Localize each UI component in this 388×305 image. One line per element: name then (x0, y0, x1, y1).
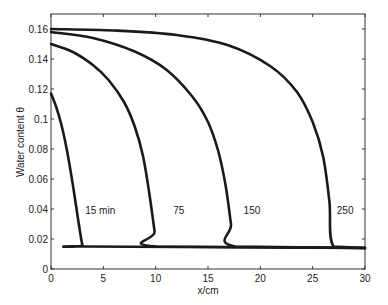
y-axis: 00.020.040.060.080.10.120.140.16 (29, 24, 365, 275)
y-tick-label: 0.02 (29, 234, 49, 245)
y-tick-label: 0.04 (29, 204, 49, 215)
x-tick-label: 10 (150, 273, 162, 284)
x-tick-label: 30 (359, 273, 371, 284)
curve-15-min (51, 94, 365, 249)
x-axis-label: x/cm (197, 285, 218, 296)
curve-label: 250 (337, 205, 354, 216)
curve-label: 150 (244, 205, 261, 216)
y-tick-label: 0.1 (34, 114, 48, 125)
x-tick-label: 15 (202, 273, 214, 284)
y-tick-label: 0.06 (29, 174, 49, 185)
x-tick-label: 20 (255, 273, 267, 284)
curve-labels: 15 min75150250 (85, 205, 354, 216)
x-tick-label: 5 (101, 273, 107, 284)
x-tick-label: 0 (48, 273, 54, 284)
curve-label: 75 (173, 205, 185, 216)
y-tick-label: 0 (42, 264, 48, 275)
y-tick-label: 0.14 (29, 54, 49, 65)
curve-75 (51, 44, 365, 248)
x-tick-label: 25 (307, 273, 319, 284)
curve-label: 15 min (85, 205, 115, 216)
y-axis-label: Water content θ (15, 106, 26, 177)
y-tick-label: 0.08 (29, 144, 49, 155)
y-tick-label: 0.16 (29, 24, 49, 35)
y-tick-label: 0.12 (29, 84, 49, 95)
chart: 051015202530 00.020.040.060.080.10.120.1… (0, 0, 388, 305)
plot-frame (51, 14, 365, 269)
